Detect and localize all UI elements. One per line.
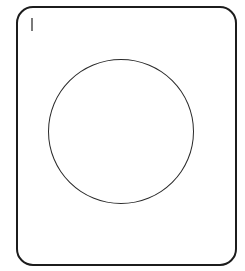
circle-shape	[48, 59, 194, 204]
canvas: I	[0, 0, 245, 271]
vertical-mark: I	[31, 18, 33, 31]
